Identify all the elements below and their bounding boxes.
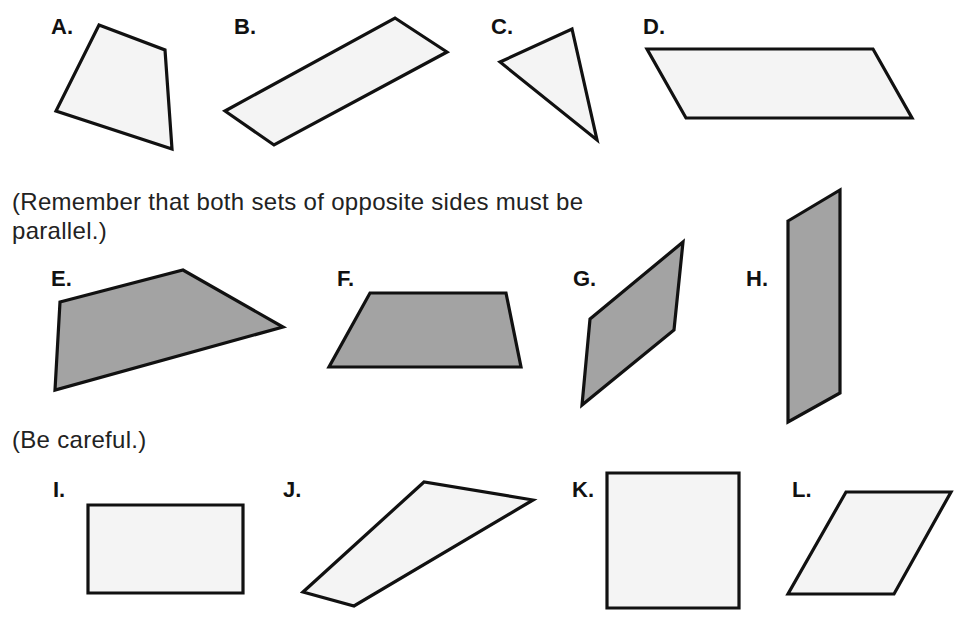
instruction-remember-line2: parallel.): [12, 216, 107, 245]
label-j: J.: [283, 479, 301, 501]
label-l: L.: [792, 479, 812, 501]
label-b: B.: [234, 16, 256, 38]
shape-h-parallelogram: [788, 190, 840, 422]
shape-a-quadrilateral: [56, 25, 172, 149]
label-k: K.: [572, 479, 594, 501]
shape-d-parallelogram: [647, 49, 912, 118]
shape-c-triangle: [500, 29, 597, 140]
shape-b-parallelogram: [225, 18, 447, 145]
label-e: E.: [51, 268, 72, 290]
instruction-careful: (Be careful.): [12, 425, 147, 454]
shapes-canvas: [0, 0, 968, 622]
shape-l-rhombus: [788, 492, 951, 594]
label-i: I.: [53, 479, 65, 501]
shape-e-quadrilateral: [55, 270, 283, 390]
shape-j-parallelogram: [303, 482, 533, 606]
shape-f-trapezoid: [329, 293, 521, 367]
shape-k-square: [607, 473, 739, 608]
label-c: C.: [491, 16, 513, 38]
instruction-remember-line1: (Remember that both sets of opposite sid…: [12, 187, 583, 216]
label-h: H.: [746, 268, 768, 290]
label-d: D.: [643, 16, 665, 38]
shape-i-rectangle: [88, 505, 243, 593]
label-g: G.: [573, 268, 596, 290]
shape-g-parallelogram: [582, 242, 683, 405]
label-f: F.: [337, 268, 354, 290]
label-a: A.: [51, 16, 73, 38]
